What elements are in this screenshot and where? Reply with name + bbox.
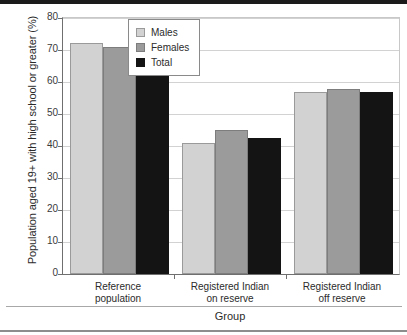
y-gridline [63,18,399,19]
y-axis-tick-label: 40 [18,140,58,150]
y-axis-tick [58,18,63,19]
legend-label-total: Total [151,57,172,68]
x-axis-title: Group [62,310,398,322]
chart-figure: Population aged 19+ with high school or … [0,0,407,335]
x-axis-category-label: Registered Indianon reserve [165,281,295,304]
plot-area [62,17,400,275]
legend-swatch-total-icon [136,58,145,67]
x-axis-category-label: Registered Indianoff reserve [277,281,407,304]
bar-males-group-1 [70,43,103,274]
y-axis-tick [58,50,63,51]
bar-females-group-2 [215,130,248,274]
bar-total-group-3 [360,92,393,274]
bar-males-group-2 [182,143,215,274]
y-axis-tick [58,242,63,243]
bar-total-group-1 [136,45,169,274]
x-axis-category-line: Registered Indian [277,281,407,293]
y-axis-tick-label: 20 [18,204,58,214]
bar-total-group-2 [248,138,281,274]
y-axis-tick [58,178,63,179]
y-axis-tick-label: 60 [18,76,58,86]
x-axis-category-label: Referencepopulation [53,281,183,304]
x-axis-tick [174,274,175,279]
legend-item-total: Total [136,55,189,70]
y-axis-tick [58,82,63,83]
x-axis-tick [286,274,287,279]
x-axis-rule [6,306,402,307]
y-axis-tick-label: 0 [18,268,58,278]
legend-swatch-females-icon [136,43,145,52]
page-top-rule [0,0,407,4]
x-axis-category-line: Reference [53,281,183,293]
y-axis-tick [58,274,63,275]
legend-item-males: Males [136,25,189,40]
x-axis-category-line: off reserve [277,293,407,305]
legend-swatch-males-icon [136,28,145,37]
legend-item-females: Females [136,40,189,55]
y-axis-tick-label: 50 [18,108,58,118]
legend-label-males: Males [151,27,178,38]
page-bottom-rule [0,330,407,332]
bar-females-group-3 [327,89,360,274]
y-axis-tick-label: 80 [18,12,58,22]
y-axis-tick [58,146,63,147]
y-axis-tick-label: 70 [18,44,58,54]
x-axis-category-line: population [53,293,183,305]
x-axis-category-line: on reserve [165,293,295,305]
y-axis-tick-label: 10 [18,236,58,246]
x-axis-category-line: Registered Indian [165,281,295,293]
y-axis-tick-label: 30 [18,172,58,182]
bar-males-group-3 [294,92,327,274]
bar-females-group-1 [103,47,136,274]
y-axis-tick [58,114,63,115]
y-axis-tick [58,210,63,211]
chart-legend: Males Females Total [128,19,200,76]
legend-label-females: Females [151,42,189,53]
